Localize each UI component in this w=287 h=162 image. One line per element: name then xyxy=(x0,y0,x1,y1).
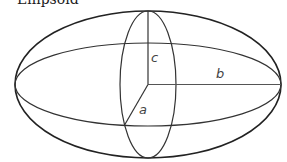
label-b: b xyxy=(216,66,224,81)
label-c: c xyxy=(151,50,158,65)
label-a: a xyxy=(139,102,147,117)
ellipsoid-diagram: c b a xyxy=(0,0,287,162)
